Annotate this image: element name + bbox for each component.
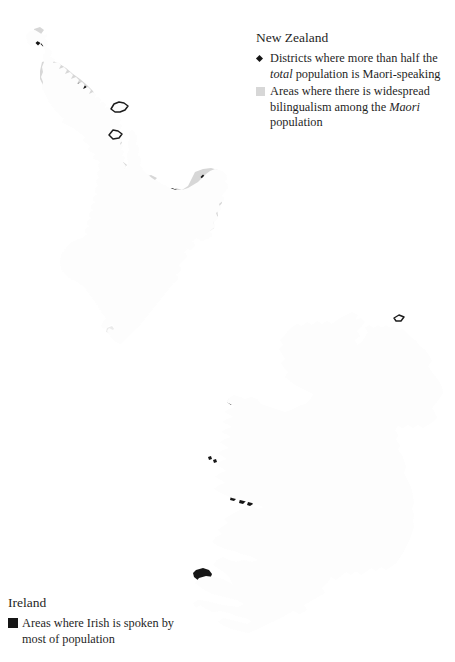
figure-page: New Zealand Districts where more than ha… [0, 0, 455, 662]
nz-coastline [26, 30, 228, 344]
diamond-icon [256, 55, 263, 62]
ireland-legend: Ireland Areas where Irish is spoken by m… [8, 595, 208, 649]
nz-offshore-island-north [111, 102, 128, 112]
ireland-legend-title: Ireland [8, 595, 208, 611]
irish-area-mayo-islet-a [208, 456, 212, 460]
nz-item1-post: population is Maori-speaking [296, 67, 441, 81]
nz-legend-item-bilingual: Areas where there is widespread bilingua… [256, 84, 454, 131]
new-zealand-map [26, 27, 228, 344]
rathlin-island [394, 315, 404, 321]
nz-item1-italic: total [270, 67, 293, 81]
nz-legend-item-districts: Districts where more than half the total… [256, 51, 454, 82]
nz-legend-item-bilingual-text: Areas where there is widespread bilingua… [270, 84, 454, 131]
ireland-legend-item-text: Areas where Irish is spoken by most of p… [22, 616, 178, 647]
nz-item2-post: population [270, 115, 323, 129]
ireland-coastline [193, 312, 443, 633]
black-square-icon [8, 618, 18, 628]
ireland-map [193, 312, 443, 633]
nz-item1-pre: Districts where more than half the [270, 51, 438, 65]
gray-square-icon [256, 87, 265, 96]
irish-area-mayo-islet-b [213, 459, 217, 463]
nz-legend-item-districts-text: Districts where more than half the total… [270, 51, 454, 82]
ireland-legend-item: Areas where Irish is spoken by most of p… [8, 616, 208, 647]
new-zealand-legend: New Zealand Districts where more than ha… [256, 30, 454, 133]
nz-legend-title: New Zealand [256, 30, 454, 46]
nz-item2-italic: Maori [389, 100, 420, 114]
